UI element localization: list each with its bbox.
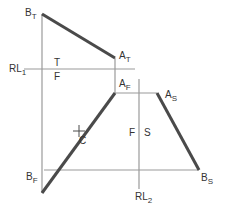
label-b-t: BT [25,7,37,21]
label-f-1: F [54,71,60,82]
label-rl-1: RL1 [9,63,27,77]
label-b-s: BS [201,172,213,186]
line-ab-side-view [157,93,199,170]
label-b-f: BF [26,171,38,185]
label-c: C [79,135,86,146]
label-a-t: AT [119,50,131,64]
label-f-2: F [129,127,135,138]
label-t: T [54,57,60,68]
line-ab-top-view [42,14,115,58]
label-a-f: AF [119,78,131,92]
label-a-s: AS [165,89,177,103]
orthographic-diagram: BT AT RL1 T F AF AS F S C BF BS RL2 [0,0,225,208]
label-rl-2: RL2 [135,191,153,205]
label-s: S [144,127,151,138]
